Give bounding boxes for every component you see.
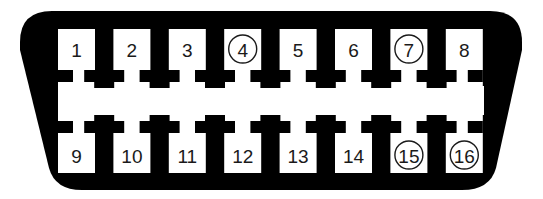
pin-tab [361, 121, 401, 133]
pin-stem [150, 82, 170, 88]
pin-tab [417, 121, 457, 133]
pin-label-1: 1 [71, 40, 82, 61]
pin-stem [94, 82, 114, 88]
pin-tab [361, 70, 401, 82]
pin-tab [306, 121, 346, 133]
pin-label-7: 7 [404, 40, 415, 61]
pin-stem [316, 115, 336, 121]
pin-stem [316, 82, 336, 88]
pin-tab [195, 70, 235, 82]
pin-label-10: 10 [121, 146, 142, 167]
pin-label-2: 2 [127, 40, 138, 61]
pin-tab [468, 121, 483, 133]
pin-stem [371, 82, 391, 88]
pin-stem [371, 115, 391, 121]
pin-stem [205, 115, 225, 121]
central-channel [58, 86, 484, 115]
pin-label-14: 14 [343, 146, 365, 167]
pin-label-16: 16 [454, 146, 475, 167]
pin-label-9: 9 [71, 146, 82, 167]
pin-stem [260, 115, 280, 121]
pin-stem [427, 82, 447, 88]
pin-tab [58, 70, 73, 82]
pin-tab [468, 70, 483, 82]
pin-tab [195, 121, 235, 133]
pin-label-12: 12 [232, 146, 253, 167]
pin-label-4: 4 [237, 40, 248, 61]
pin-stem [205, 82, 225, 88]
pin-label-13: 13 [288, 146, 309, 167]
connector-diagram: 12345678910111213141516 [0, 0, 543, 199]
pin-tab [84, 121, 124, 133]
pin-label-6: 6 [348, 40, 359, 61]
pin-stem [260, 82, 280, 88]
pin-stem [150, 115, 170, 121]
pin-tab [58, 121, 73, 133]
pin-tab [140, 121, 180, 133]
pin-label-5: 5 [293, 40, 304, 61]
pin-tab [250, 70, 290, 82]
pin-tab [306, 70, 346, 82]
pin-label-15: 15 [398, 146, 419, 167]
pin-tab [250, 121, 290, 133]
pin-tab [84, 70, 124, 82]
pin-label-3: 3 [182, 40, 193, 61]
pin-tab [140, 70, 180, 82]
pin-label-11: 11 [177, 146, 197, 167]
pin-stem [94, 115, 114, 121]
pin-label-8: 8 [459, 40, 470, 61]
pin-tab [417, 70, 457, 82]
pin-stem [427, 115, 447, 121]
